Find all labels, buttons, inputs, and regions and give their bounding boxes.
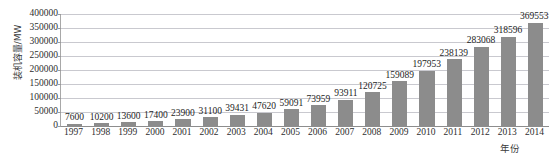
bar [94, 123, 109, 126]
y-tick-label: 150000 [14, 79, 58, 89]
clipped-header-text [4, 0, 204, 7]
y-tick-label: 50000 [14, 107, 58, 117]
bar-value-label: 283068 [467, 36, 496, 46]
y-tick-label: 350000 [14, 23, 58, 33]
bar [392, 81, 407, 126]
bar [311, 105, 326, 126]
bar-value-label: 23900 [171, 109, 195, 119]
x-tick-label: 2007 [335, 128, 354, 138]
bar [447, 59, 462, 126]
bar-value-label: 13600 [117, 112, 141, 122]
bar [257, 113, 272, 126]
bar-series: 7600102001360017400239003110039431476205… [61, 14, 549, 126]
bar [365, 92, 380, 126]
x-tick-label: 2005 [281, 128, 300, 138]
y-tick-label: 300000 [14, 37, 58, 47]
x-tick-label: 2014 [525, 128, 544, 138]
y-axis-tick-labels: 0500001000001500002000002500003000003500… [14, 14, 58, 126]
bar-value-label: 238139 [440, 49, 469, 59]
plot-area: 7600102001360017400239003110039431476205… [60, 14, 549, 127]
bar-value-label: 47620 [252, 102, 276, 112]
bar [474, 47, 489, 126]
x-tick-label: 1999 [118, 128, 137, 138]
bar-value-label: 17400 [144, 111, 168, 121]
bar-value-label: 159089 [385, 71, 414, 81]
y-tick-label: 400000 [14, 9, 58, 19]
y-tick-mark [58, 126, 61, 127]
y-tick-label: 250000 [14, 51, 58, 61]
x-tick-label: 2006 [308, 128, 327, 138]
x-tick-label: 2002 [200, 128, 219, 138]
bar [121, 122, 136, 126]
bar-value-label: 369553 [520, 12, 549, 22]
bar-value-label: 93911 [334, 89, 357, 99]
x-tick-label: 2011 [444, 128, 463, 138]
bar-value-label: 120725 [358, 82, 387, 92]
x-tick-label: 2000 [145, 128, 164, 138]
bar [175, 119, 190, 126]
x-tick-label: 2004 [254, 128, 273, 138]
bar-value-label: 39431 [225, 104, 249, 114]
bar-value-label: 318596 [494, 26, 523, 36]
y-tick-label: 100000 [14, 93, 58, 103]
x-tick-label: 2010 [417, 128, 436, 138]
x-tick-label: 1998 [91, 128, 110, 138]
bar-value-label: 31100 [199, 107, 222, 117]
bar [67, 124, 82, 126]
x-tick-label: 2009 [389, 128, 408, 138]
bar [338, 100, 353, 126]
x-axis-title: 年份 [500, 141, 520, 155]
x-tick-label: 2001 [173, 128, 192, 138]
x-tick-label: 1997 [64, 128, 83, 138]
bar-chart-figure: 装机容量/MW 05000010000015000020000025000030… [0, 0, 554, 157]
bar [203, 117, 218, 126]
x-tick-label: 2008 [362, 128, 381, 138]
bar [230, 115, 245, 126]
bar [528, 23, 543, 126]
x-tick-label: 2012 [471, 128, 490, 138]
bar-value-label: 7600 [65, 113, 84, 123]
bar [284, 109, 299, 126]
bar-value-label: 197953 [413, 60, 442, 70]
y-tick-label: 200000 [14, 65, 58, 75]
x-tick-label: 2013 [498, 128, 517, 138]
bar [419, 71, 434, 126]
y-tick-label: 0 [14, 121, 58, 131]
bar-value-label: 10200 [90, 113, 114, 123]
x-axis-tick-labels: 1997199819992000200120022003200420052006… [60, 128, 548, 142]
bar-value-label: 59091 [279, 99, 303, 109]
x-tick-label: 2003 [227, 128, 246, 138]
bar [148, 121, 163, 126]
bar-value-label: 73959 [307, 95, 331, 105]
bar [501, 37, 516, 126]
